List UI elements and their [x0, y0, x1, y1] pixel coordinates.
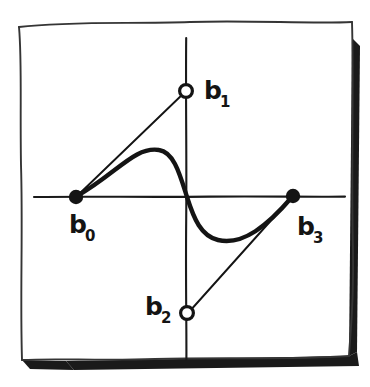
point-marker-b2[interactable]	[181, 307, 194, 320]
label-b2-subscript: 2	[161, 309, 171, 327]
label-b3-subscript: 3	[313, 229, 323, 247]
label-b0-subscript: 0	[85, 227, 95, 245]
point-marker-b1[interactable]	[180, 85, 193, 98]
label-b1-subscript: 1	[220, 93, 230, 111]
bezier-sketch-figure: b 0 b 1 b 2 b 3	[0, 0, 370, 387]
point-marker-b0[interactable]	[69, 190, 83, 204]
figure-root: b 0 b 1 b 2 b 3	[0, 0, 370, 387]
point-marker-b3[interactable]	[286, 189, 300, 203]
